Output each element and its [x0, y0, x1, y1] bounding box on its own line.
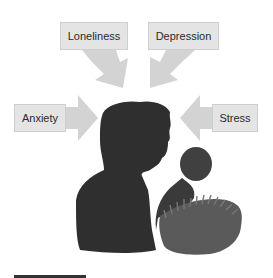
factor-label-stress: Stress — [219, 112, 250, 124]
factor-label-loneliness: Loneliness — [68, 30, 121, 42]
infant-head — [180, 147, 212, 181]
arrow-anxiety — [66, 95, 98, 141]
factor-label-depression: Depression — [156, 30, 212, 42]
diagram-graphics — [0, 0, 273, 278]
arrow-depression — [150, 50, 195, 88]
factor-box-anxiety: Anxiety — [14, 104, 66, 132]
factor-box-depression: Depression — [148, 22, 219, 50]
arrow-loneliness — [82, 50, 128, 88]
factor-box-stress: Stress — [212, 104, 258, 132]
factor-label-anxiety: Anxiety — [22, 112, 58, 124]
factor-box-loneliness: Loneliness — [60, 22, 128, 50]
arrow-stress — [180, 95, 212, 141]
